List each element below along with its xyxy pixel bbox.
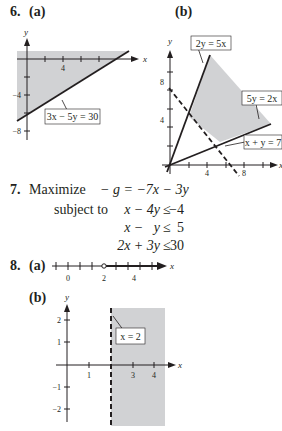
y-tick-label: 2: [57, 316, 61, 325]
y-tick-label: −2: [52, 405, 61, 414]
x-axis-label: x: [177, 360, 182, 370]
y-axis-label: y: [64, 292, 69, 302]
x-tick-label: 1: [87, 371, 91, 380]
x-axis-label: x: [278, 160, 282, 170]
line-label-5y-2x: 5y = 2x: [247, 93, 278, 104]
line-label-x-plus-y-7: x + y = 7: [245, 137, 281, 148]
y-tick-label: −1: [52, 383, 61, 392]
x-tick-label: 8: [242, 169, 246, 178]
y-tick-label: 1: [57, 338, 61, 347]
x-tick-label: 4: [205, 169, 209, 178]
x-tick-label: 4: [152, 371, 156, 380]
shaded-region: [111, 308, 165, 426]
x-tick-label: 3: [131, 371, 135, 380]
line-label-2y-5x: 2y = 5x: [196, 38, 227, 49]
x-axis-arrow-icon: [168, 362, 176, 368]
y-axis-arrow-icon: [64, 304, 70, 312]
x-axis-arrow-icon: [270, 162, 278, 168]
graph-8b: x = 2 x y 1 3 4 2 1 −1 −2: [0, 0, 200, 431]
boundary-label: x = 2: [120, 331, 141, 342]
